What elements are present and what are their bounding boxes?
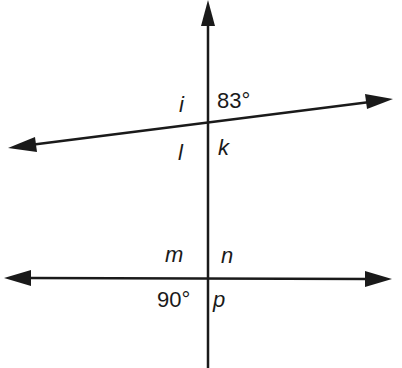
arrow-up-icon xyxy=(201,0,215,26)
angle-label-m: m xyxy=(165,242,183,267)
slanted-line xyxy=(8,94,393,152)
transversal-line xyxy=(201,0,215,368)
angle-label-90: 90° xyxy=(157,287,190,312)
angle-label-l: l xyxy=(178,140,184,165)
angle-label-i: i xyxy=(179,92,185,117)
arrow-right-icon xyxy=(365,271,392,287)
angle-label-p: p xyxy=(212,287,225,312)
angle-label-n: n xyxy=(221,243,233,268)
angle-diagram: i 83° l k m n 90° p xyxy=(0,0,402,368)
arrow-left-icon xyxy=(4,270,31,286)
arrow-left-icon xyxy=(8,137,37,152)
angle-label-k: k xyxy=(218,135,230,160)
arrow-right-icon xyxy=(365,94,393,109)
angle-label-83: 83° xyxy=(217,88,250,113)
horizontal-line xyxy=(4,270,392,287)
